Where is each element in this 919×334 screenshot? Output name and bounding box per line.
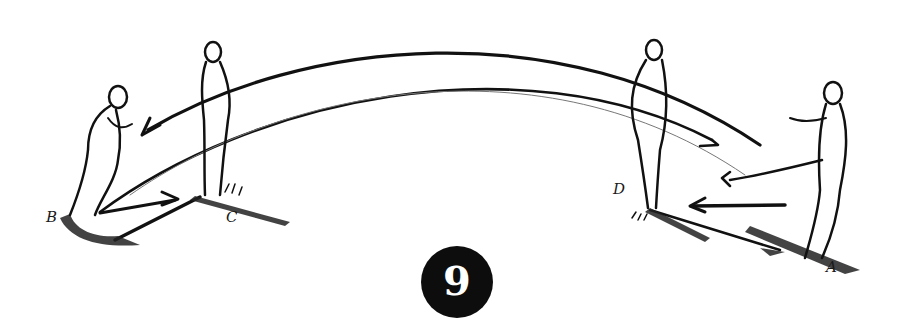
lofted-pass-arc (100, 53, 760, 212)
figure-number-badge: 9 (421, 246, 493, 318)
player-c-figure (202, 42, 230, 195)
label-player-a: A (826, 258, 837, 276)
label-player-b: B (46, 208, 57, 226)
player-a-figure (722, 82, 846, 258)
figure-number: 9 (443, 261, 471, 301)
label-player-c: C (226, 208, 237, 226)
label-player-d: D (613, 180, 625, 198)
